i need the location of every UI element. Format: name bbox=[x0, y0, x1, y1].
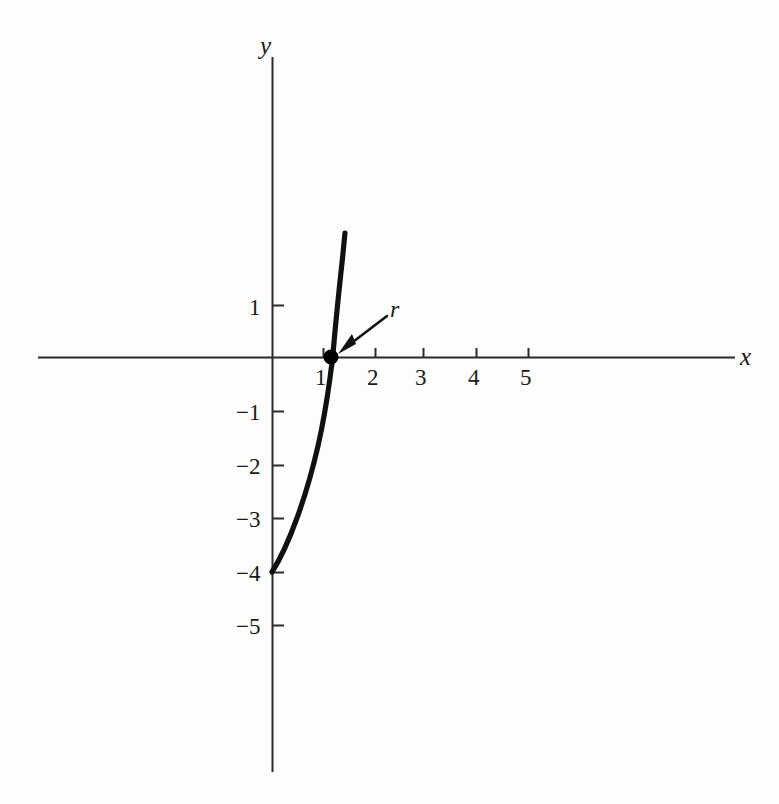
y-tick-label-minus5: −5 bbox=[236, 615, 260, 638]
x-tick-label-5: 5 bbox=[520, 366, 532, 389]
root-annotation-arrow bbox=[338, 316, 387, 354]
x-axis-label: x bbox=[740, 344, 751, 369]
plot-svg bbox=[0, 0, 779, 804]
x-tick-label-1: 1 bbox=[315, 366, 327, 389]
y-tick-label-minus2: −2 bbox=[236, 455, 260, 478]
y-tick-label-1: 1 bbox=[249, 296, 261, 319]
x-tick-label-4: 4 bbox=[468, 366, 480, 389]
y-tick-marks bbox=[272, 306, 284, 626]
root-marker-dot bbox=[324, 350, 339, 365]
curve-path bbox=[272, 233, 345, 572]
y-axis-label: y bbox=[260, 33, 271, 58]
x-tick-label-3: 3 bbox=[415, 366, 427, 389]
y-tick-label-minus3: −3 bbox=[236, 508, 260, 531]
root-label-r: r bbox=[390, 297, 399, 321]
x-tick-label-2: 2 bbox=[367, 366, 379, 389]
figure-canvas: 1 2 3 4 5 1 −1 −2 −3 −4 −5 y x r bbox=[0, 0, 779, 804]
y-tick-label-minus1: −1 bbox=[236, 401, 260, 424]
y-tick-label-minus4: −4 bbox=[236, 562, 260, 585]
